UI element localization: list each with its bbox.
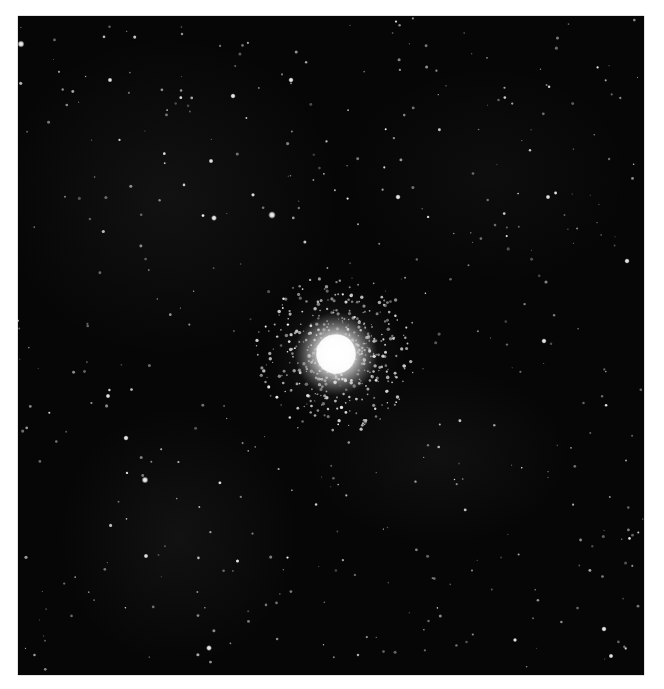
- globular-cluster-photo: [18, 16, 644, 675]
- star-field: [18, 16, 644, 675]
